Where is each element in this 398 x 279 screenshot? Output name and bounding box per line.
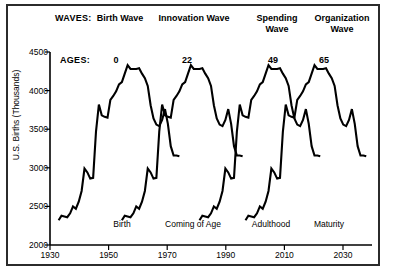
wave-curve-organization-wave: [246, 65, 367, 220]
wave-header-spending: Spending Wave: [246, 13, 308, 35]
wave-curves: [59, 65, 367, 220]
ages-row-label: AGES:: [60, 55, 90, 65]
wave-curve-spending-wave: [200, 65, 321, 220]
phase-label-adulthood: Adulthood: [243, 219, 299, 229]
wave-curve-innovation-wave: [122, 65, 243, 220]
wave-header-line1: Birth Wave: [88, 13, 152, 24]
age-label-65: 65: [313, 55, 335, 65]
waves-row-label: WAVES:: [55, 13, 92, 23]
x-tick-label: 1970: [152, 250, 182, 260]
wave-header-line2: Wave: [304, 24, 380, 35]
x-tick-label: 1930: [35, 250, 65, 260]
age-label-0: 0: [105, 55, 127, 65]
y-tick-label: 4500: [22, 47, 48, 57]
x-tick-label: 1990: [211, 250, 241, 260]
x-tick-label: 2010: [269, 250, 299, 260]
y-tick-label: 4000: [22, 86, 48, 96]
wave-header-innovation: Innovation Wave: [148, 13, 240, 24]
y-tick-labels: 4500 4000 3500 3000 2500 2000: [22, 0, 48, 279]
y-tick-label: 3500: [22, 124, 48, 134]
wave-header-organization: Organization Wave: [304, 13, 380, 35]
wave-header-line1: Spending: [246, 13, 308, 24]
age-label-49: 49: [262, 55, 284, 65]
y-tick-label: 3000: [22, 163, 48, 173]
x-tick-label: 2030: [328, 250, 358, 260]
wave-curve-birth-wave: [59, 65, 180, 220]
x-tick-label: 1950: [94, 250, 124, 260]
wave-header-line1: Innovation Wave: [148, 13, 240, 24]
chart-page: U.S. Births (Thousands) 4500 4000 3500 3…: [0, 0, 398, 279]
wave-header-line2: Wave: [246, 24, 308, 35]
wave-header-birth: Birth Wave: [88, 13, 152, 24]
y-tick-label: 2500: [22, 201, 48, 211]
phase-label-maturity: Maturity: [303, 219, 355, 229]
wave-header-line1: Organization: [304, 13, 380, 24]
y-axis-title: U.S. Births (Thousands): [11, 55, 21, 175]
phase-label-birth: Birth: [104, 219, 140, 229]
age-label-22: 22: [176, 55, 198, 65]
births-wave-svg: [0, 0, 398, 279]
y-tick-label: 2000: [22, 240, 48, 250]
phase-label-coming-of-age: Coming of Age: [152, 219, 234, 229]
chart-plot-area: [0, 0, 398, 279]
